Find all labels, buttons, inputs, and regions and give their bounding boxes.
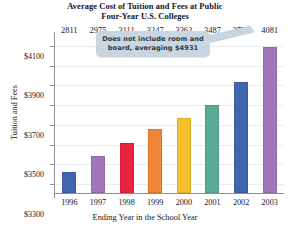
- bar[interactable]: 3725: [234, 82, 248, 193]
- y-axis-tick-label: $3900: [24, 91, 44, 100]
- bar-slot: 2811: [55, 36, 83, 193]
- bar-series: 28112975311132473362348737254081: [55, 36, 284, 193]
- bar-slot: 4081: [256, 36, 284, 193]
- annotation-callout: Does not include room and board, averagi…: [96, 31, 210, 57]
- x-axis-tick-label: 1996: [55, 198, 83, 207]
- bar-slot: 3725: [227, 36, 255, 193]
- y-axis-tick-label: $4100: [24, 51, 44, 60]
- y-axis-tick-label: $3500: [24, 170, 44, 179]
- bar-chart: Average Cost of Tuition and Fees at Publ…: [0, 0, 290, 234]
- bar[interactable]: 3362: [177, 118, 191, 193]
- bar-slot: 3487: [198, 36, 226, 193]
- bar-slot: 3111: [113, 36, 141, 193]
- bar-slot: 3247: [141, 36, 169, 193]
- bar-slot: 2975: [84, 36, 112, 193]
- x-axis-tick-label: 2003: [256, 198, 284, 207]
- annotation-line-2: board, averaging $4931: [101, 44, 205, 53]
- x-axis-title: Ending Year in the School Year: [18, 213, 272, 222]
- bar[interactable]: 3487: [205, 105, 219, 193]
- annotation-line-1: Does not include room and: [101, 35, 205, 44]
- x-axis-tick-label: 2002: [227, 198, 255, 207]
- bar-value-label: 4081: [261, 26, 278, 35]
- y-axis-tick-label: $3700: [24, 130, 44, 139]
- x-axis-tick-label: 1999: [141, 198, 169, 207]
- x-axis-tick-label: 2000: [170, 198, 198, 207]
- bar[interactable]: 3247: [148, 129, 162, 193]
- y-axis-title: Tuition and Fees: [10, 71, 19, 155]
- chart-title-line-1: Average Cost of Tuition and Fees at Publ…: [67, 2, 222, 11]
- chart-title: Average Cost of Tuition and Fees at Publ…: [18, 2, 272, 22]
- bar[interactable]: 3111: [120, 143, 134, 193]
- plot-area: $4100$3900$3700$3500$3300$3100$2900$2700…: [54, 36, 284, 194]
- x-axis-tick-label: 1998: [113, 198, 141, 207]
- bar-slot: 3362: [170, 36, 198, 193]
- x-axis-line: [54, 193, 284, 194]
- x-axis-tick-labels: 19961997199819992000200120022003: [55, 198, 284, 207]
- bar-value-label: 2811: [61, 26, 77, 35]
- bar-value-label: 3725: [233, 26, 250, 35]
- chart-title-line-2: Four-Year U.S. Colleges: [101, 12, 189, 21]
- bar[interactable]: 4081: [263, 47, 277, 193]
- x-axis-tick-label: 2001: [198, 198, 226, 207]
- x-axis-tick-label: 1997: [84, 198, 112, 207]
- bar[interactable]: 2975: [91, 156, 105, 193]
- bar[interactable]: 2811: [62, 172, 76, 193]
